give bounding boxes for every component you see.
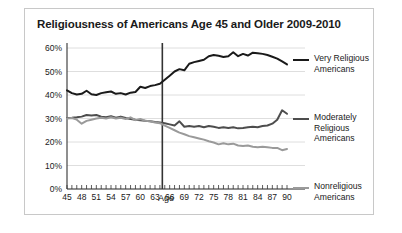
legend-label-very-religious: Very Religious Americans (314, 53, 376, 74)
legend-swatch-moderately-religious (293, 118, 309, 120)
legend-swatch-very-religious (293, 59, 309, 61)
svg-text:90: 90 (282, 192, 292, 202)
svg-text:0%: 0% (50, 184, 63, 194)
legend-swatch-nonreligious (293, 187, 309, 189)
svg-text:51: 51 (92, 192, 102, 202)
y-axis-tick-labels: 0%10%20%30%40%50%60% (45, 43, 62, 194)
legend-label-nonreligious: Nonreligious Americans (314, 181, 376, 202)
svg-text:48: 48 (77, 192, 87, 202)
svg-text:40%: 40% (45, 90, 62, 100)
svg-text:45: 45 (62, 192, 72, 202)
svg-text:78: 78 (224, 192, 234, 202)
svg-text:50%: 50% (45, 67, 62, 77)
svg-text:81: 81 (238, 192, 248, 202)
data-series (67, 52, 287, 150)
chart-figure: Religiousness of Americans Age 45 and Ol… (24, 8, 374, 215)
svg-text:54: 54 (106, 192, 116, 202)
svg-text:87: 87 (268, 192, 278, 202)
legend-label-moderately-religious: Moderately Religious Americans (314, 112, 376, 144)
svg-text:10%: 10% (45, 161, 62, 171)
svg-text:20%: 20% (45, 137, 62, 147)
svg-text:84: 84 (253, 192, 263, 202)
svg-text:30%: 30% (45, 114, 62, 124)
x-axis-title: Age (121, 193, 211, 203)
svg-text:60%: 60% (45, 43, 62, 53)
